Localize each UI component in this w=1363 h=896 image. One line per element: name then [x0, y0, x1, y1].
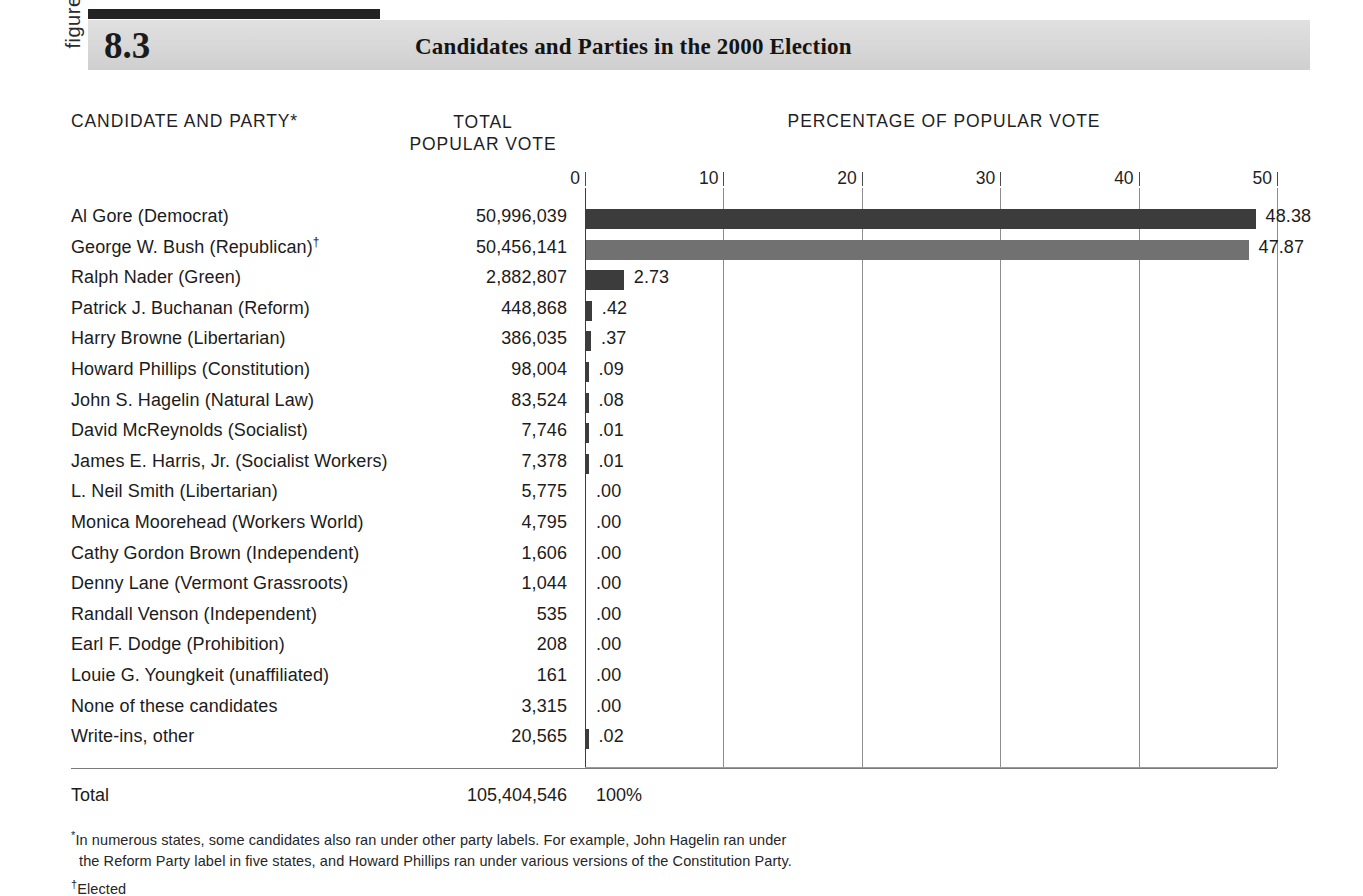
vote-percent-label: .00 — [596, 604, 621, 625]
candidate-name: George W. Bush (Republican)† — [71, 237, 320, 258]
column-header-percentage: PERCENTAGE OF POPULAR VOTE — [612, 111, 1276, 132]
vote-percent-label: .00 — [596, 543, 621, 564]
candidate-name: Monica Moorehead (Workers World) — [71, 512, 364, 533]
vote-bar — [586, 362, 589, 382]
candidate-votes: 20,565 — [355, 726, 567, 747]
vote-percent-label: .09 — [599, 359, 624, 380]
table-row: Randall Venson (Independent)535.00 — [0, 604, 1363, 635]
footnote-dagger-text: Elected — [77, 881, 126, 896]
vote-percent-label: .08 — [599, 390, 624, 411]
total-votes: 105,404,546 — [355, 785, 567, 806]
vote-percent-label: .02 — [599, 726, 624, 747]
table-row: David McReynolds (Socialist)7,746.01 — [0, 420, 1363, 451]
header-rule — [88, 9, 380, 19]
candidate-name: Write-ins, other — [71, 726, 194, 747]
table-row: Monica Moorehead (Workers World)4,795.00 — [0, 512, 1363, 543]
vote-percent-label: .00 — [596, 512, 621, 533]
candidate-votes: 50,456,141 — [355, 237, 567, 258]
figure-number: 8.3 — [104, 20, 150, 70]
table-row: Ralph Nader (Green)2,882,8072.73 — [0, 267, 1363, 298]
candidate-name: Howard Phillips (Constitution) — [71, 359, 310, 380]
vote-percent-label: .01 — [599, 451, 624, 472]
table-row: L. Neil Smith (Libertarian)5,775.00 — [0, 481, 1363, 512]
candidate-name: Denny Lane (Vermont Grassroots) — [71, 573, 348, 594]
vote-percent-label: .00 — [596, 573, 621, 594]
candidate-votes: 208 — [355, 634, 567, 655]
table-row: None of these candidates3,315.00 — [0, 696, 1363, 727]
footnote-dagger: †Elected — [71, 879, 126, 896]
candidate-votes: 83,524 — [355, 390, 567, 411]
candidate-votes: 50,996,039 — [355, 206, 567, 227]
figure-kicker: figure — [59, 0, 87, 65]
candidate-votes: 2,882,807 — [355, 267, 567, 288]
vote-percent-label: .00 — [596, 634, 621, 655]
x-tick-mark-50 — [1277, 172, 1278, 186]
candidate-name: None of these candidates — [71, 696, 278, 717]
candidate-votes: 98,004 — [355, 359, 567, 380]
candidate-name: L. Neil Smith (Libertarian) — [71, 481, 278, 502]
candidate-name: Patrick J. Buchanan (Reform) — [71, 298, 310, 319]
candidate-votes: 7,746 — [355, 420, 567, 441]
candidate-name: Randall Venson (Independent) — [71, 604, 317, 625]
total-separator — [71, 768, 1277, 769]
candidate-votes: 5,775 — [355, 481, 567, 502]
column-header-candidate: CANDIDATE AND PARTY* — [71, 111, 298, 132]
candidate-name: Louie G. Youngkeit (unaffiliated) — [71, 665, 329, 686]
table-row: Write-ins, other20,565.02 — [0, 726, 1363, 757]
figure-title: Candidates and Parties in the 2000 Elect… — [415, 20, 852, 70]
vote-bar — [586, 240, 1249, 260]
x-tick-label-50: 50 — [1253, 168, 1272, 189]
table-row: Cathy Gordon Brown (Independent)1,606.00 — [0, 543, 1363, 574]
candidate-votes: 7,378 — [355, 451, 567, 472]
candidate-votes: 3,315 — [355, 696, 567, 717]
x-tick-label-0: 0 — [570, 168, 580, 189]
candidate-votes: 1,606 — [355, 543, 567, 564]
table-row: Howard Phillips (Constitution)98,004.09 — [0, 359, 1363, 390]
total-label: Total — [71, 785, 109, 806]
vote-bar — [586, 423, 589, 443]
candidate-votes: 535 — [355, 604, 567, 625]
candidate-name: David McReynolds (Socialist) — [71, 420, 308, 441]
elected-dagger-marker: † — [313, 235, 320, 249]
total-percent: 100% — [596, 785, 642, 806]
vote-percent-label: 48.38 — [1266, 206, 1312, 227]
x-tick-mark-30 — [1000, 172, 1001, 186]
table-row: Earl F. Dodge (Prohibition)208.00 — [0, 634, 1363, 665]
vote-bar — [586, 209, 1256, 229]
candidate-name: Harry Browne (Libertarian) — [71, 328, 286, 349]
vote-bar — [586, 331, 591, 351]
candidate-name: Cathy Gordon Brown (Independent) — [71, 543, 359, 564]
vote-percent-label: .00 — [596, 481, 621, 502]
x-tick-mark-20 — [862, 172, 863, 186]
column-header-total-popular-vote: TOTAL POPULAR VOTE — [399, 111, 567, 155]
footnote-asterisk-line2: the Reform Party label in five states, a… — [71, 851, 971, 872]
table-row: Louie G. Youngkeit (unaffiliated)161.00 — [0, 665, 1363, 696]
candidate-name: Earl F. Dodge (Prohibition) — [71, 634, 285, 655]
table-row: James E. Harris, Jr. (Socialist Workers)… — [0, 451, 1363, 482]
vote-percent-label: .42 — [602, 298, 627, 319]
table-row: Patrick J. Buchanan (Reform)448,868.42 — [0, 298, 1363, 329]
candidate-votes: 161 — [355, 665, 567, 686]
table-row: Harry Browne (Libertarian)386,035.37 — [0, 328, 1363, 359]
vote-bar — [586, 270, 624, 290]
x-tick-label-30: 30 — [976, 168, 995, 189]
vote-percent-label: .01 — [599, 420, 624, 441]
total-row: Total 105,404,546 100% — [0, 785, 1363, 811]
candidate-name: Ralph Nader (Green) — [71, 267, 241, 288]
vote-bar — [586, 454, 589, 474]
table-row: Denny Lane (Vermont Grassroots)1,044.00 — [0, 573, 1363, 604]
candidate-votes: 386,035 — [355, 328, 567, 349]
x-tick-label-40: 40 — [1114, 168, 1133, 189]
footnote-asterisk: *In numerous states, some candidates als… — [71, 830, 971, 872]
vote-bar — [586, 301, 592, 321]
candidate-votes: 448,868 — [355, 298, 567, 319]
candidate-name: Al Gore (Democrat) — [71, 206, 229, 227]
x-tick-label-20: 20 — [837, 168, 856, 189]
vote-percent-label: 47.87 — [1259, 237, 1305, 258]
vote-percent-label: 2.73 — [634, 267, 669, 288]
vote-percent-label: .00 — [596, 665, 621, 686]
x-tick-mark-10 — [723, 172, 724, 186]
x-tick-mark-0 — [585, 172, 586, 186]
candidate-votes: 4,795 — [355, 512, 567, 533]
candidate-name: John S. Hagelin (Natural Law) — [71, 390, 314, 411]
